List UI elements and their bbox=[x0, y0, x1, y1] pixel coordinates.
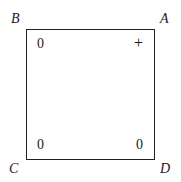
corner-value-b: 0 bbox=[37, 37, 44, 51]
vertex-label-b: B bbox=[11, 12, 20, 26]
vertex-label-a: A bbox=[160, 12, 169, 26]
vertex-label-d: D bbox=[160, 162, 170, 176]
corner-value-d: 0 bbox=[136, 138, 143, 152]
corner-value-c: 0 bbox=[37, 138, 44, 152]
corner-value-a: + bbox=[134, 36, 143, 50]
vertex-label-c: C bbox=[9, 162, 18, 176]
